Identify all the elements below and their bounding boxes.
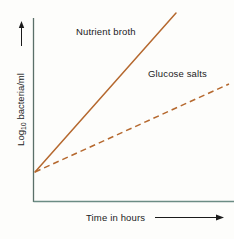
y-axis-title-suffix: bacteria/ml bbox=[15, 73, 26, 122]
series-label-glucose-salts: Glucose salts bbox=[148, 68, 207, 79]
series-label-nutrient-broth: Nutrient broth bbox=[76, 26, 136, 37]
growth-curve-figure: Log10 bacteria/ml Time in hours Nutrient… bbox=[0, 0, 234, 239]
y-axis-arrow-icon bbox=[19, 21, 24, 46]
series-line-glucose-salts bbox=[35, 84, 229, 172]
y-axis-title-subscript: 10 bbox=[20, 122, 27, 130]
x-axis-title: Time in hours bbox=[86, 212, 145, 223]
x-axis-arrow-icon bbox=[155, 215, 224, 221]
y-axis-title: Log10 bacteria/ml bbox=[15, 45, 26, 175]
y-axis-title-prefix: Log bbox=[15, 130, 26, 146]
